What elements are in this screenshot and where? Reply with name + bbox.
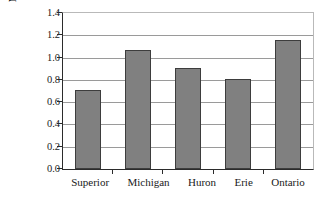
x-tick-mark	[263, 170, 264, 174]
x-tick-mark	[162, 170, 163, 174]
bar-ontario[interactable]	[275, 40, 301, 169]
x-tick-mark	[213, 170, 214, 174]
bar-chart-figure: Mean PCB concentration (µg/g wet weight)…	[0, 0, 329, 206]
x-label-erie: Erie	[234, 176, 252, 188]
x-tick-mark	[112, 170, 113, 174]
x-label-huron: Huron	[188, 176, 216, 188]
bar-erie[interactable]	[225, 79, 251, 169]
bar-michigan[interactable]	[125, 50, 151, 169]
x-label-michigan: Michigan	[127, 176, 169, 188]
x-label-superior: Superior	[71, 176, 109, 188]
bar-series	[63, 12, 313, 169]
bar-superior[interactable]	[75, 90, 101, 169]
x-axis-labels: Superior Michigan Huron Erie Ontario	[62, 176, 314, 188]
bar-huron[interactable]	[175, 68, 201, 169]
x-label-ontario: Ontario	[271, 176, 305, 188]
y-axis-title: Mean PCB concentration (µg/g wet weight)	[2, 0, 36, 34]
y-axis-title-line1: Mean PCB concentration	[7, 0, 19, 2]
